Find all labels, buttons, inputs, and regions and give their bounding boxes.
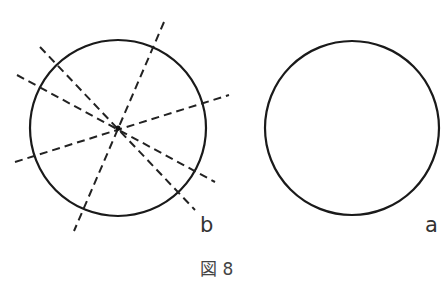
label-a: a: [425, 213, 438, 237]
figure-canvas: [0, 0, 441, 281]
circle-a: [265, 41, 439, 215]
circle-b-group: [15, 22, 229, 231]
dashed-line-4: [15, 95, 229, 162]
figure-caption: 図 8: [200, 255, 233, 280]
center-point: [116, 126, 121, 131]
label-b: b: [200, 213, 213, 237]
